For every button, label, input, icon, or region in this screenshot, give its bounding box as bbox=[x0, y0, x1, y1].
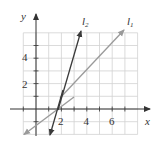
y-axis-label: y bbox=[20, 10, 26, 22]
line-l2-label: l2 bbox=[82, 15, 89, 29]
line-l1-label: l1 bbox=[127, 15, 134, 29]
x-axis-label: x bbox=[144, 115, 150, 127]
y-tick-label: 4 bbox=[22, 51, 28, 63]
coordinate-plane: 2 4 6 2 4 x y l2 l1 bbox=[0, 0, 165, 143]
x-tick-label: 4 bbox=[84, 115, 90, 127]
line-l1 bbox=[60, 30, 124, 98]
x-tick-label: 6 bbox=[109, 115, 115, 127]
y-tick-label: 2 bbox=[22, 78, 28, 90]
grid bbox=[23, 33, 137, 135]
x-tick-label: 2 bbox=[58, 115, 64, 127]
